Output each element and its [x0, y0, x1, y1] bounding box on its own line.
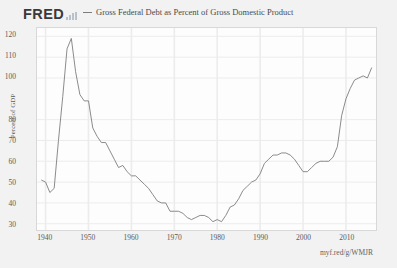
y-tick-label: 120: [0, 31, 16, 39]
plot-area: [36, 27, 377, 231]
fred-logo: FRED: [23, 7, 64, 21]
x-tick-label: 1990: [240, 233, 280, 242]
x-tick-label: 1960: [111, 233, 151, 242]
bar-chart-icon: [66, 12, 77, 20]
y-tick-label: 30: [0, 221, 16, 229]
x-tick-label: 1970: [154, 233, 194, 242]
y-tick-label: 50: [0, 179, 16, 187]
y-axis-title: Percent of GDP: [9, 56, 17, 176]
legend-series-label: Gross Federal Debt as Percent of Gross D…: [96, 7, 293, 17]
x-tick-label: 1950: [68, 233, 108, 242]
series-line: [37, 28, 376, 230]
chart-legend: Gross Federal Debt as Percent of Gross D…: [83, 7, 293, 17]
chart-header: FRED Gross Federal Debt as Percent of Gr…: [0, 0, 397, 26]
x-tick-label: 1980: [197, 233, 237, 242]
x-tick-label: 2010: [327, 233, 367, 242]
x-tick-label: 2000: [284, 233, 324, 242]
x-tick-label: 1940: [25, 233, 65, 242]
fred-chart-screenshot: FRED Gross Federal Debt as Percent of Gr…: [0, 0, 397, 268]
source-note: myf.red/g/WMJR: [0, 248, 373, 257]
legend-swatch-icon: [83, 12, 92, 13]
y-tick-label: 40: [0, 200, 16, 208]
